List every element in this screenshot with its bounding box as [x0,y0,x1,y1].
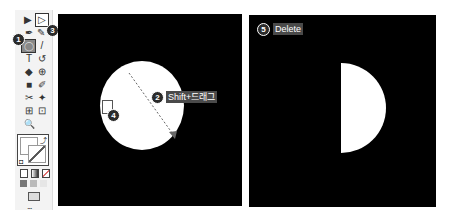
swap-icon[interactable]: ⤴ [40,135,47,145]
step-badge-2: 2 [151,91,164,104]
draw-inside-icon[interactable] [40,180,47,187]
warp-tool-icon[interactable]: ⊕ [36,66,48,78]
stroke-swatch[interactable] [28,145,46,163]
zoom-tool-icon[interactable]: 🔍 [23,118,35,130]
color-mode-row [20,169,50,177]
more-tools-button[interactable]: ... [27,201,32,211]
screen-mode-icon[interactable] [28,192,40,201]
color-icon[interactable] [20,169,28,178]
selection-tool-icon[interactable]: ▶ [22,14,34,26]
drag-arrow-icon [58,14,242,206]
blend-tool-icon[interactable]: ✂ [23,92,35,104]
step-badge-4: 4 [107,109,120,122]
instruction-label-delete: Delete [273,23,303,35]
fill-stroke-widget[interactable]: ⤴ ◘ [17,134,49,166]
eyedropper-tool-icon[interactable]: ✐ [36,79,48,91]
half-circle[interactable] [341,63,386,153]
symbol-sprayer-tool-icon[interactable]: ✦ [36,92,48,104]
gradient-icon[interactable] [31,169,39,178]
none-icon[interactable] [42,169,50,178]
slice-tool-icon[interactable]: ⊡ [36,105,48,117]
draw-normal-icon[interactable] [20,180,27,187]
gradient-tool-icon[interactable]: ■ [23,79,35,91]
canvas-before[interactable]: 4 2 Shift+드래그 [58,14,242,206]
type-tool-icon[interactable]: T [23,53,35,65]
step-badge-5: 5 [257,23,270,36]
draw-mode-row [20,180,50,188]
eraser-tool-icon[interactable]: ◆ [23,66,35,78]
artboard-tool-icon[interactable]: ⊞ [23,105,35,117]
default-colors-icon[interactable]: ◘ [19,158,23,165]
instruction-label-shift-drag: Shift+드래그 [166,91,217,103]
brush-tool-icon[interactable]: / [36,40,48,52]
draw-behind-icon[interactable] [30,180,37,187]
direct-selection-tool-icon[interactable]: ▷ [35,13,49,27]
canvas-after[interactable]: 5 Delete [249,15,436,207]
step-badge-1: 1 [12,33,25,46]
rotate-tool-icon[interactable]: ↺ [36,53,48,65]
